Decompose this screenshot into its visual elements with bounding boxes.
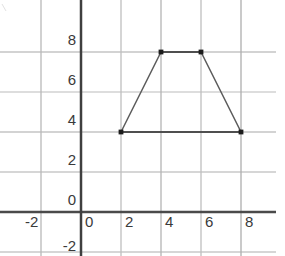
x-tick-label-6: 6 [205,214,213,229]
vertex-b-marker [159,50,164,55]
vertex-a-marker [119,130,124,135]
x-tick-label-2: 2 [125,214,133,229]
corner-artifact [2,4,6,11]
y-tick-label-4: 4 [54,112,76,127]
vertex-c-marker [199,50,204,55]
y-tick-label-neg2: -2 [54,238,76,253]
y-tick-label-6: 6 [54,72,76,87]
corner-mark [2,4,6,11]
x-tick-label-0: 0 [85,214,93,229]
coordinate-plane-figure: -2 0 2 4 6 8 8 6 4 2 0 -2 [0,0,285,256]
y-tick-label-2: 2 [54,152,76,167]
vertex-d-marker [239,130,244,135]
y-tick-label-0: 0 [54,192,76,207]
plot-canvas [0,0,285,256]
y-tick-label-8: 8 [54,32,76,47]
x-tick-label-8: 8 [245,214,253,229]
x-tick-label-4: 4 [165,214,173,229]
x-tick-label-neg2: -2 [25,214,38,229]
